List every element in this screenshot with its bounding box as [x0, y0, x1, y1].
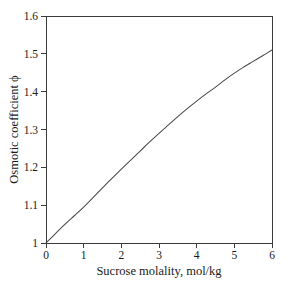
data-curve-sucrose [46, 50, 272, 243]
y-tick-label-5: 1.5 [24, 48, 39, 60]
y-tick-label-3: 1.3 [24, 124, 39, 136]
x-tick-label-1: 1 [81, 249, 87, 261]
x-tick-label-6: 6 [269, 249, 275, 261]
x-axis-ticks [46, 243, 272, 248]
x-tick-label-5: 5 [231, 249, 237, 261]
chart-figure: 1 1.1 1.2 1.3 1.4 1.5 1.6 0 1 2 3 4 5 6 … [0, 0, 289, 282]
y-tick-label-0: 1 [32, 237, 38, 249]
y-axis-title: Osmotic coefficient ϕ [7, 75, 21, 184]
y-tick-labels: 1 1.1 1.2 1.3 1.4 1.5 1.6 [24, 10, 39, 249]
plot-frame [46, 16, 272, 243]
y-axis-ticks [41, 16, 46, 243]
x-axis-title: Sucrose molality, mol/kg [96, 264, 222, 278]
y-tick-label-1: 1.1 [24, 199, 39, 211]
y-tick-label-6: 1.6 [24, 10, 39, 22]
x-tick-label-3: 3 [156, 249, 162, 261]
x-tick-label-4: 4 [194, 249, 200, 261]
x-tick-labels: 0 1 2 3 4 5 6 [43, 249, 275, 261]
x-tick-label-0: 0 [43, 249, 49, 261]
y-tick-label-4: 1.4 [24, 86, 39, 98]
plot-canvas: 1 1.1 1.2 1.3 1.4 1.5 1.6 0 1 2 3 4 5 6 … [0, 0, 289, 282]
y-tick-label-2: 1.2 [24, 161, 39, 173]
x-tick-label-2: 2 [118, 249, 124, 261]
